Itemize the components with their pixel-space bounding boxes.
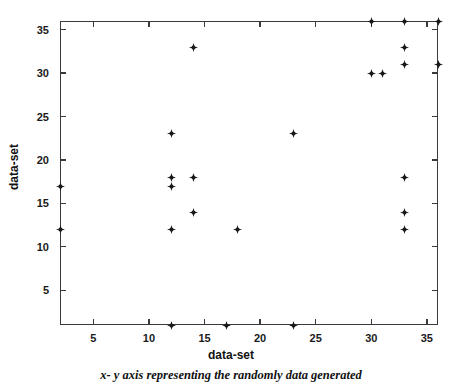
- figure-caption: x- y axis representing the randomly data…: [0, 368, 462, 383]
- y-tick-label: 30: [0, 67, 49, 79]
- x-axis-label: data-set: [0, 348, 462, 362]
- x-tick-label: 15: [198, 332, 210, 344]
- x-tick-label: 10: [143, 332, 155, 344]
- y-tick-label: 5: [0, 284, 49, 296]
- y-tick-label: 15: [0, 197, 49, 209]
- y-tick-label: 25: [0, 111, 49, 123]
- scatter-plot-figure: 51015202530355101520253035 data-set data…: [0, 0, 462, 390]
- x-tick-label: 30: [365, 332, 377, 344]
- x-tick-label: 35: [421, 332, 433, 344]
- y-axis-label: data-set: [7, 144, 21, 190]
- x-tick-label: 5: [90, 332, 96, 344]
- y-tick-label: 10: [0, 241, 49, 253]
- y-tick-label: 35: [0, 24, 49, 36]
- x-tick-label: 25: [310, 332, 322, 344]
- plot-area-frame: [60, 21, 438, 325]
- x-tick-label: 20: [254, 332, 266, 344]
